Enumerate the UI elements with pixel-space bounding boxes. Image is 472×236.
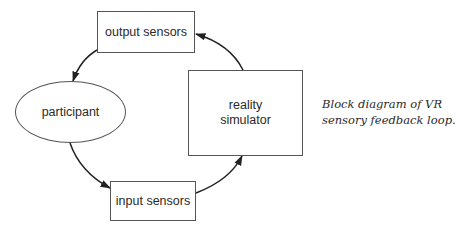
edge-participant-to-input: [70, 143, 110, 188]
participant-label: participant: [42, 105, 100, 120]
reality-simulator-box: reality simulator: [188, 70, 303, 156]
edge-simulator-to-output: [196, 34, 243, 70]
participant-ellipse: participant: [15, 81, 126, 143]
caption-line1: Block diagram of VR: [322, 96, 456, 112]
figure-caption: Block diagram of VR sensory feedback loo…: [322, 96, 456, 128]
input-sensors-label: input sensors: [116, 194, 190, 209]
reality-simulator-label-line1: reality: [229, 98, 262, 113]
output-sensors-box: output sensors: [97, 11, 195, 53]
edge-output-to-participant: [73, 50, 97, 81]
edge-input-to-simulator: [196, 156, 242, 193]
input-sensors-box: input sensors: [110, 181, 196, 221]
output-sensors-label: output sensors: [105, 25, 187, 40]
caption-line2: sensory feedback loop.: [322, 112, 456, 128]
reality-simulator-label-line2: simulator: [220, 113, 271, 128]
